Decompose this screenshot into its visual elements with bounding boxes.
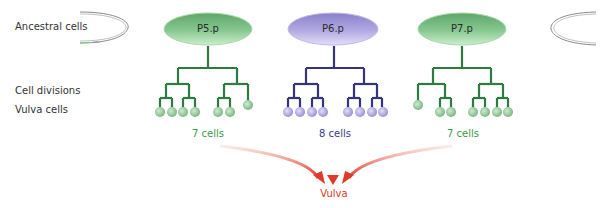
p6p-vulva-cells [283, 107, 388, 117]
p6p-lineage-tree [288, 46, 382, 107]
row-label-cell-divisions: Cell divisions [15, 85, 80, 96]
cell-name-p6p: P6.p [322, 23, 344, 34]
p7p-lineage-tree [418, 46, 508, 107]
p5p-vulva-cells [155, 100, 253, 117]
cell-name-p5p: P5.p [197, 23, 219, 34]
p5p-lineage-tree [160, 46, 248, 107]
row-label-ancestral-cells: Ancestral cells [15, 21, 88, 32]
arrow-p5p-to-vulva [220, 146, 325, 184]
arrow-p7p-to-vulva [342, 146, 452, 184]
count-p5p: 7 cells [192, 128, 224, 139]
vulva-label: Vulva [320, 188, 347, 199]
vulva-lineage-diagram [0, 0, 607, 208]
count-p7p: 7 cells [447, 128, 479, 139]
cell-name-p7p: P7.p [451, 23, 473, 34]
count-p6p: 8 cells [319, 128, 351, 139]
right-embryo-outline [551, 12, 596, 45]
arrow-p6p-to-vulva [327, 146, 339, 185]
row-label-vulva-cells: Vulva cells [15, 104, 68, 115]
